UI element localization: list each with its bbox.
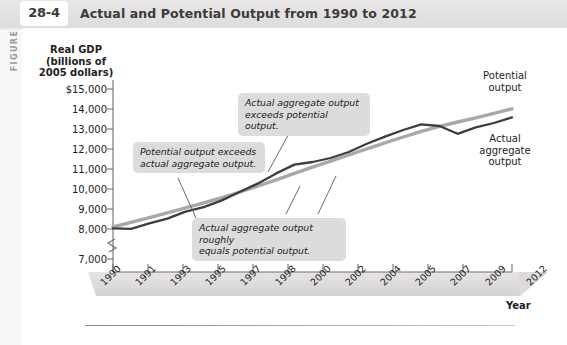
annotation-actual-exceeds-potential: Actual aggregate output exceeds potentia…	[238, 93, 370, 136]
annotation-potential-exceeds-actual: Potential output exceeds actual aggregat…	[133, 142, 265, 173]
figure-page: FIGURE 28-4 Actual and Potential Output …	[0, 0, 567, 345]
chart-plot-area	[0, 0, 567, 345]
annotation-actual-roughly-equals-potential: Actual aggregate output roughly equals p…	[192, 218, 346, 261]
potential-output-label: Potential output	[470, 70, 540, 93]
y-tick-marks	[107, 89, 113, 259]
figure-bottom-rule	[85, 325, 515, 326]
x-tick-marks	[113, 264, 512, 272]
x-axis-title: Year	[506, 300, 531, 311]
axis-break-icon	[108, 239, 116, 252]
actual-output-label: Actual aggregate output	[470, 133, 540, 168]
